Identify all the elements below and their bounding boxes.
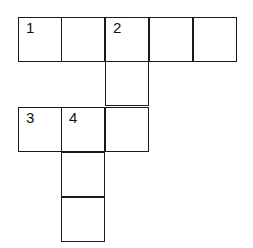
crossword-cell-r0c1[interactable]: [61, 17, 105, 62]
crossword-cell-r0c2[interactable]: 2: [105, 17, 149, 62]
crossword-cell-r0c4[interactable]: [193, 17, 237, 62]
crossword-cell-r0c3[interactable]: [149, 17, 193, 62]
crossword-cell-r0c0[interactable]: 1: [18, 17, 62, 62]
clue-number: 2: [113, 20, 121, 35]
crossword-cell-r2c1[interactable]: 4: [61, 107, 105, 152]
crossword-cell-r4c1[interactable]: [61, 197, 105, 242]
crossword-grid: 1 2 3 4: [0, 0, 253, 248]
crossword-cell-r2c2[interactable]: [105, 107, 149, 152]
clue-number: 4: [69, 110, 77, 125]
clue-number: 3: [26, 110, 34, 125]
clue-number: 1: [26, 20, 34, 35]
crossword-cell-r3c1[interactable]: [61, 152, 105, 197]
crossword-cell-r1c2[interactable]: [105, 61, 149, 106]
crossword-cell-r2c0[interactable]: 3: [18, 107, 62, 152]
